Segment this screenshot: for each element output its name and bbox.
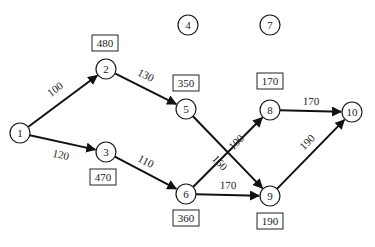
edge-weight-label: 190 — [297, 132, 317, 153]
node-label: 8 — [267, 104, 273, 116]
node-value-text: 360 — [178, 212, 195, 224]
edge-weight-label: 170 — [303, 95, 320, 107]
edge-2-5: 130 — [115, 66, 176, 104]
node-label: 10 — [347, 106, 359, 118]
node-label: 7 — [267, 19, 273, 31]
edge-1-3: 120 — [30, 135, 95, 162]
node-2: 2 — [96, 59, 116, 79]
edge-weight-label: 100 — [45, 79, 66, 99]
node-label: 9 — [267, 190, 273, 202]
node-4: 4 — [178, 15, 198, 35]
node-value-text: 470 — [95, 171, 112, 183]
edge-arrow — [196, 194, 259, 196]
node-3: 3 — [96, 142, 116, 162]
edge-arrow — [277, 120, 344, 189]
node-5: 5 — [176, 99, 196, 119]
node-label: 1 — [17, 127, 23, 139]
node-label: 4 — [185, 19, 191, 31]
node-value-text: 170 — [262, 75, 279, 87]
edge-arrow — [30, 135, 95, 149]
edge-weight-label: 130 — [136, 66, 157, 84]
node-value-box-2: 480 — [92, 35, 118, 51]
edge-weight-label: 160 — [210, 152, 230, 173]
edge-weight-label: 170 — [220, 179, 237, 191]
node-value-text: 190 — [262, 215, 279, 227]
node-6: 6 — [176, 184, 196, 204]
edge-3-6: 110 — [115, 152, 176, 189]
edge-9-10: 190 — [277, 120, 344, 189]
node-label: 3 — [103, 146, 109, 158]
edge-arrow — [280, 110, 341, 111]
node-value-box-6: 360 — [173, 210, 199, 226]
node-label: 6 — [183, 188, 189, 200]
node-value-box-9: 190 — [257, 213, 283, 229]
node-value-box-3: 470 — [90, 169, 116, 185]
edge-arrow — [28, 76, 97, 127]
node-value-box-5: 350 — [173, 75, 199, 91]
edge-1-2: 100 — [28, 76, 97, 127]
node-7: 7 — [260, 15, 280, 35]
node-value-text: 480 — [97, 37, 114, 49]
node-label: 2 — [103, 63, 109, 75]
node-value-box-8: 170 — [257, 73, 283, 89]
edge-weight-label: 190 — [226, 132, 247, 153]
edge-weight-label: 110 — [136, 152, 156, 170]
edge-weight-label: 120 — [52, 147, 71, 162]
node-value-text: 350 — [178, 77, 195, 89]
network-diagram: 100120130110160190170170190 480350470360… — [0, 0, 375, 247]
node-1: 1 — [10, 123, 30, 143]
node-10: 10 — [342, 102, 362, 122]
node-label: 5 — [183, 103, 189, 115]
node-8: 8 — [260, 100, 280, 120]
edge-8-10: 170 — [280, 95, 341, 112]
node-9: 9 — [260, 186, 280, 206]
edge-6-9: 170 — [196, 179, 259, 196]
